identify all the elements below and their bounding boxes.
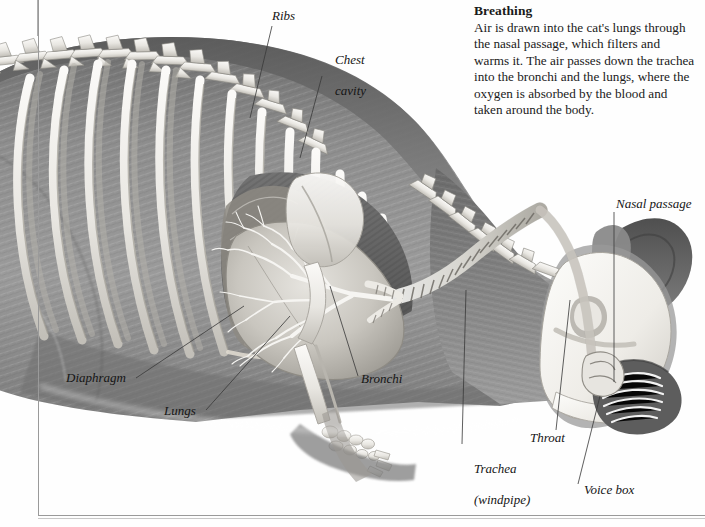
frame-bottom-rule-secondary — [38, 518, 705, 519]
label-nasal-passage: Nasal passage — [616, 196, 691, 211]
label-chest-cavity: Chest cavity — [322, 36, 366, 114]
label-trachea-line1: Trachea — [474, 461, 517, 476]
caption-body: Air is drawn into the cat's lungs throug… — [474, 20, 696, 118]
label-trachea-line2: (windpipe) — [474, 492, 530, 507]
label-throat: Throat — [530, 430, 565, 445]
figure-page: Breathing Air is drawn into the cat's lu… — [0, 0, 705, 527]
larynx — [582, 352, 624, 396]
label-ribs: Ribs — [272, 8, 295, 23]
label-bronchi: Bronchi — [361, 371, 402, 386]
label-diaphragm: Diaphragm — [66, 370, 126, 385]
caption-title: Breathing — [474, 3, 696, 19]
label-trachea: Trachea (windpipe) — [461, 445, 530, 523]
frame-left-rule — [38, 0, 39, 516]
label-chest-cavity-line1: Chest — [335, 52, 365, 67]
label-lungs: Lungs — [164, 403, 196, 418]
frame-bottom-rule — [38, 515, 705, 516]
label-voice-box: Voice box — [584, 482, 634, 497]
breathing-caption: Breathing Air is drawn into the cat's lu… — [474, 3, 696, 118]
label-chest-cavity-line2: cavity — [335, 83, 366, 98]
